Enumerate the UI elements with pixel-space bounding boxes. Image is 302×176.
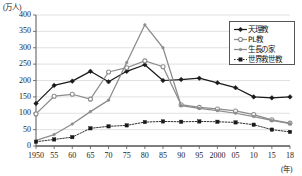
data-point-marker	[288, 130, 291, 133]
data-point-marker	[198, 107, 201, 110]
chart-legend: 天理教PL教生長の家世界救世教	[229, 21, 295, 65]
data-point-marker	[234, 112, 237, 115]
data-point-marker	[34, 112, 38, 116]
data-point-marker	[89, 127, 92, 130]
data-point-marker	[71, 135, 74, 138]
legend-label: 世界救世教	[248, 55, 282, 64]
legend-item-3: 生長の家	[233, 44, 292, 54]
data-point-marker	[180, 104, 183, 107]
data-point-marker	[252, 115, 255, 118]
data-point-marker	[289, 122, 292, 125]
data-point-marker	[270, 96, 275, 101]
data-point-marker	[239, 57, 242, 60]
data-point-marker	[161, 120, 164, 123]
data-point-marker	[216, 120, 219, 123]
legend-label: 生長の家	[248, 45, 275, 54]
legend-marker-icon	[233, 45, 248, 54]
legend-item-1: 天理教	[233, 24, 292, 34]
data-point-marker	[70, 92, 74, 96]
data-point-marker	[144, 24, 147, 27]
data-point-marker	[233, 85, 238, 90]
data-point-marker	[215, 80, 220, 85]
data-point-marker	[143, 59, 147, 63]
data-point-marker	[107, 70, 111, 74]
data-point-marker	[251, 95, 256, 100]
data-point-marker	[107, 125, 110, 128]
data-point-marker	[125, 124, 128, 127]
data-point-marker	[107, 99, 110, 102]
legend-label: 天理教	[248, 25, 268, 34]
data-point-marker	[239, 48, 242, 51]
data-point-marker	[179, 120, 182, 123]
line-chart: (万人) (年) 050100150200250300350400 195055…	[0, 0, 302, 176]
data-point-marker	[71, 123, 74, 126]
legend-label: PL教	[248, 35, 263, 44]
data-point-marker	[53, 133, 56, 136]
data-point-marker	[34, 140, 37, 143]
data-point-marker	[198, 120, 201, 123]
data-point-marker	[288, 95, 293, 100]
data-point-marker	[125, 61, 128, 64]
data-point-marker	[271, 119, 274, 122]
data-point-marker	[52, 94, 56, 98]
data-point-marker	[238, 27, 243, 32]
data-point-marker	[179, 77, 184, 82]
data-point-marker	[161, 65, 165, 69]
data-point-marker	[89, 110, 92, 113]
data-point-marker	[216, 109, 219, 112]
data-point-marker	[270, 128, 273, 131]
data-point-marker	[197, 76, 202, 81]
data-point-marker	[239, 37, 243, 41]
data-point-marker	[234, 121, 237, 124]
legend-marker-icon	[233, 55, 248, 64]
data-point-marker	[88, 97, 92, 101]
data-point-marker	[162, 46, 165, 49]
data-point-marker	[143, 120, 146, 123]
legend-marker-icon	[233, 35, 248, 44]
legend-item-4: 世界救世教	[233, 54, 292, 64]
legend-marker-icon	[233, 25, 248, 34]
data-point-marker	[70, 79, 75, 84]
data-point-marker	[252, 123, 255, 126]
data-point-marker	[52, 138, 55, 141]
legend-item-2: PL教	[233, 34, 292, 44]
